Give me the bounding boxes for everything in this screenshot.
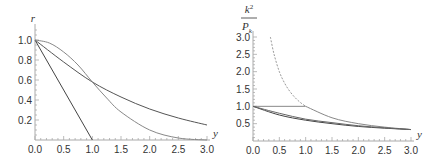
axes: 0.00.51.01.52.02.53.00.20.40.60.81.0yr bbox=[18, 12, 218, 155]
x-tick-label: 3.0 bbox=[200, 144, 214, 155]
axes: 0.00.51.01.52.02.53.00.51.01.52.02.53.0y… bbox=[236, 3, 422, 156]
chart-right-k2-over-pk-vs-y: 0.00.51.01.52.02.53.00.51.01.52.02.53.0y… bbox=[219, 0, 438, 164]
y-tick-label: 1.0 bbox=[18, 35, 32, 46]
x-tick-label: 1.0 bbox=[85, 144, 99, 155]
x-tick-label: 0.5 bbox=[272, 145, 286, 156]
x-tick-label: 0.0 bbox=[28, 144, 42, 155]
series-line-gaussian bbox=[35, 40, 207, 140]
y-axis-label: k2Pk bbox=[241, 3, 257, 35]
y-axis-label: r bbox=[31, 12, 36, 24]
x-tick-label: 2.5 bbox=[171, 144, 185, 155]
series-line-flat-then-1-y bbox=[253, 106, 411, 129]
y-tick-label: 0.8 bbox=[18, 55, 32, 66]
x-tick-label: 3.0 bbox=[404, 145, 418, 156]
figure: 0.00.51.01.52.02.53.00.20.40.60.81.0yr 0… bbox=[0, 0, 438, 164]
y-tick-label: 2.0 bbox=[236, 66, 250, 77]
chart-left-r-vs-y: 0.00.51.01.52.02.53.00.20.40.60.81.0yr bbox=[0, 0, 219, 164]
y-tick-label: 0.4 bbox=[18, 95, 32, 106]
x-tick-label: 1.5 bbox=[114, 144, 128, 155]
x-axis-label: y bbox=[416, 128, 422, 140]
x-axis-label: y bbox=[212, 127, 218, 139]
y-tick-label: 0.6 bbox=[18, 75, 32, 86]
y-tick-label: 1.5 bbox=[236, 84, 250, 95]
x-tick-label: 1.5 bbox=[325, 145, 339, 156]
svg-text:k2: k2 bbox=[245, 3, 254, 15]
x-tick-label: 2.5 bbox=[378, 145, 392, 156]
x-tick-label: 2.0 bbox=[351, 145, 365, 156]
x-tick-label: 0.5 bbox=[57, 144, 71, 155]
series-group bbox=[253, 37, 411, 130]
y-tick-label: 0.5 bbox=[236, 118, 250, 129]
x-tick-label: 0.0 bbox=[246, 145, 260, 156]
series-group bbox=[35, 40, 207, 140]
y-tick-label: 1.0 bbox=[236, 101, 250, 112]
x-tick-label: 2.0 bbox=[143, 144, 157, 155]
series-line-dashed-1-y bbox=[270, 37, 305, 106]
series-line-linear bbox=[35, 40, 92, 140]
y-tick-label: 0.2 bbox=[18, 115, 32, 126]
y-tick-label: 2.5 bbox=[236, 49, 250, 60]
x-tick-label: 1.0 bbox=[299, 145, 313, 156]
